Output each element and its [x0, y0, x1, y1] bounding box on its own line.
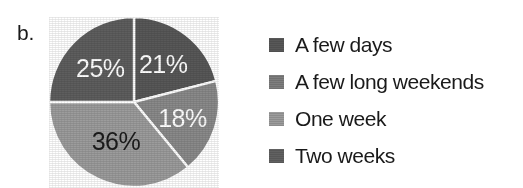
legend-item-label: Two weeks	[295, 144, 395, 168]
pie-slice-value-label: 21%	[139, 50, 188, 78]
pie-slices	[49, 17, 219, 187]
legend-swatch-icon	[269, 75, 284, 89]
pie-slice-value-label: 18%	[158, 104, 207, 132]
legend-item-label: One week	[295, 107, 386, 131]
pie-slice-value-label: 36%	[92, 127, 141, 155]
pie-chart: 21%18%36%25%	[49, 17, 219, 188]
legend-item-one-week[interactable]: One week	[269, 100, 519, 137]
pie-chart-svg: 21%18%36%25%	[49, 17, 219, 187]
legend-swatch-icon	[269, 38, 284, 52]
pie-slice-value-label: 25%	[76, 54, 125, 82]
legend-item-label: A few days	[295, 33, 392, 57]
legend-swatch-icon	[269, 112, 284, 126]
legend-item-label: A few long weekends	[295, 70, 484, 94]
legend-swatch-icon	[269, 149, 284, 163]
panel-label: b.	[17, 21, 34, 45]
legend-item-two-weeks[interactable]: Two weeks	[269, 137, 519, 174]
chart-legend: A few days A few long weekends One week …	[269, 26, 519, 174]
legend-item-a-few-long-weekends[interactable]: A few long weekends	[269, 63, 519, 100]
legend-item-a-few-days[interactable]: A few days	[269, 26, 519, 63]
pie-chart-figure: b. 21%18%36%25% A few days A few long we…	[0, 0, 523, 188]
